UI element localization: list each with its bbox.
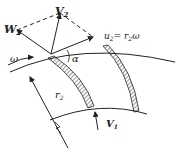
impeller-velocity-diagram: V2 W2 u2= r2ω ω α r2 V1 xyxy=(0,0,183,166)
blade-1 xyxy=(48,56,94,108)
label-w2: W2 xyxy=(4,23,21,37)
label-r2: r2 xyxy=(55,89,64,101)
r2-radius-arrow xyxy=(30,77,68,148)
label-u2: u2= r2ω xyxy=(104,31,140,42)
label-alpha: α xyxy=(72,53,79,64)
r2-break-mark xyxy=(55,122,61,133)
dashed-w2-v2 xyxy=(17,13,60,30)
v1-vector xyxy=(95,112,98,130)
u2-vector xyxy=(51,37,93,54)
outer-rim-arc xyxy=(10,53,175,72)
label-omega: ω xyxy=(10,53,18,64)
label-v1: V1 xyxy=(106,118,118,130)
v2-vector xyxy=(51,14,60,54)
alpha-angle-arc xyxy=(67,50,69,62)
label-v2: V2 xyxy=(55,5,69,19)
inner-rim-arc xyxy=(50,108,147,120)
w2-vector xyxy=(17,30,51,54)
